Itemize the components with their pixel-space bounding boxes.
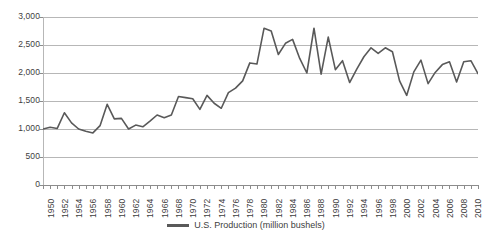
- x-axis-tick-label: 2004: [432, 199, 441, 218]
- x-axis-tick: [414, 185, 415, 189]
- x-axis-tick: [157, 185, 158, 189]
- x-axis-tick: [314, 185, 315, 189]
- x-axis-tick: [93, 185, 94, 189]
- x-axis-tick: [121, 185, 122, 189]
- x-axis-tick: [321, 185, 322, 189]
- x-axis-tick: [278, 185, 279, 189]
- x-axis-tick: [178, 185, 179, 189]
- x-axis-tick-label: 2006: [446, 199, 455, 218]
- x-axis-tick: [371, 185, 372, 189]
- x-axis-tick: [164, 185, 165, 189]
- x-axis-tick: [471, 185, 472, 189]
- x-axis-tick: [442, 185, 443, 189]
- x-axis-tick-label: 1960: [118, 199, 127, 218]
- x-axis-tick-label: 1968: [175, 199, 184, 218]
- x-axis-tick: [350, 185, 351, 189]
- x-axis-tick: [250, 185, 251, 189]
- x-axis-tick: [357, 185, 358, 189]
- x-axis-tick-label: 1976: [232, 199, 241, 218]
- x-axis-tick-label: 1954: [75, 199, 84, 218]
- x-axis-tick: [328, 185, 329, 189]
- x-axis-tick: [114, 185, 115, 189]
- x-axis-tick-label: 1970: [189, 199, 198, 218]
- x-axis-tick: [285, 185, 286, 189]
- x-axis-tick: [214, 185, 215, 189]
- x-axis-tick: [186, 185, 187, 189]
- x-axis-tick: [257, 185, 258, 189]
- x-axis-tick: [464, 185, 465, 189]
- y-axis-tick-label: 1,500: [0, 96, 40, 105]
- x-axis-tick: [171, 185, 172, 189]
- x-axis-tick: [378, 185, 379, 189]
- x-axis-tick: [72, 185, 73, 189]
- x-axis-tick-label: 1982: [275, 199, 284, 218]
- x-axis-tick-label: 1998: [389, 199, 398, 218]
- x-axis-tick: [228, 185, 229, 189]
- legend-swatch-us-production: [167, 224, 189, 227]
- chart-container: 3,0002,5002,0001,5001,0005000 1950195219…: [0, 0, 492, 239]
- x-axis-tick: [221, 185, 222, 189]
- legend-label-us-production: U.S. Production (million bushels): [194, 221, 325, 230]
- x-axis-tick-label: 1956: [89, 199, 98, 218]
- x-axis-tick-label: 2010: [474, 199, 483, 218]
- x-axis-tick: [407, 185, 408, 189]
- x-axis-tick-label: 1992: [346, 199, 355, 218]
- x-axis-tick-label: 1990: [332, 199, 341, 218]
- x-axis-tick-label: 1988: [317, 199, 326, 218]
- x-axis-tick: [64, 185, 65, 189]
- x-axis-tick: [335, 185, 336, 189]
- x-axis-tick: [271, 185, 272, 189]
- x-axis-tick-label: 1950: [47, 199, 56, 218]
- x-axis-tick: [449, 185, 450, 189]
- x-axis-tick-label: 1978: [246, 199, 255, 218]
- x-axis-tick: [243, 185, 244, 189]
- x-axis-tick-label: 1966: [161, 199, 170, 218]
- series-line-us-production: [43, 28, 478, 133]
- x-axis-tick-label: 1958: [104, 199, 113, 218]
- x-axis-tick-label: 2008: [460, 199, 469, 218]
- x-axis-tick: [236, 185, 237, 189]
- x-axis-tick: [150, 185, 151, 189]
- x-axis-tick: [293, 185, 294, 189]
- x-axis-tick-label: 1974: [218, 199, 227, 218]
- x-axis-tick: [421, 185, 422, 189]
- x-axis-tick: [364, 185, 365, 189]
- x-axis-tick-label: 2000: [403, 199, 412, 218]
- y-axis-tick-label: 1,000: [0, 124, 40, 133]
- x-axis-tick: [385, 185, 386, 189]
- x-axis-tick-label: 1980: [260, 199, 269, 218]
- x-axis-tick: [86, 185, 87, 189]
- x-axis-tick: [43, 185, 44, 189]
- x-axis-tick: [392, 185, 393, 189]
- x-axis-tick-label: 1984: [289, 199, 298, 218]
- x-axis-tick: [79, 185, 80, 189]
- x-axis-tick: [300, 185, 301, 189]
- x-axis-tick: [129, 185, 130, 189]
- x-axis-tick: [343, 185, 344, 189]
- x-axis-tick-label: 1996: [375, 199, 384, 218]
- x-axis-tick: [57, 185, 58, 189]
- y-axis-tick-label: 500: [0, 152, 40, 161]
- x-axis-tick: [428, 185, 429, 189]
- x-axis-tick: [457, 185, 458, 189]
- x-axis-tick: [193, 185, 194, 189]
- x-axis-tick-label: 1972: [203, 199, 212, 218]
- x-axis-tick: [264, 185, 265, 189]
- x-axis-tick-label: 1964: [146, 199, 155, 218]
- x-axis-tick: [400, 185, 401, 189]
- y-axis-tick-label: 2,000: [0, 68, 40, 77]
- series-layer: [43, 17, 478, 185]
- x-axis-tick-label: 2002: [417, 199, 426, 218]
- y-axis-tick-label: 0: [0, 180, 40, 189]
- x-axis-tick-label: 1952: [61, 199, 70, 218]
- x-axis-tick: [200, 185, 201, 189]
- x-axis-tick: [435, 185, 436, 189]
- x-axis-tick: [100, 185, 101, 189]
- x-axis-tick-label: 1986: [303, 199, 312, 218]
- x-axis-tick: [143, 185, 144, 189]
- x-axis-tick: [107, 185, 108, 189]
- y-axis-tick-label: 3,000: [0, 12, 40, 21]
- x-axis-tick: [478, 185, 479, 189]
- y-axis-tick-label: 2,500: [0, 40, 40, 49]
- chart-legend: U.S. Production (million bushels): [0, 221, 492, 230]
